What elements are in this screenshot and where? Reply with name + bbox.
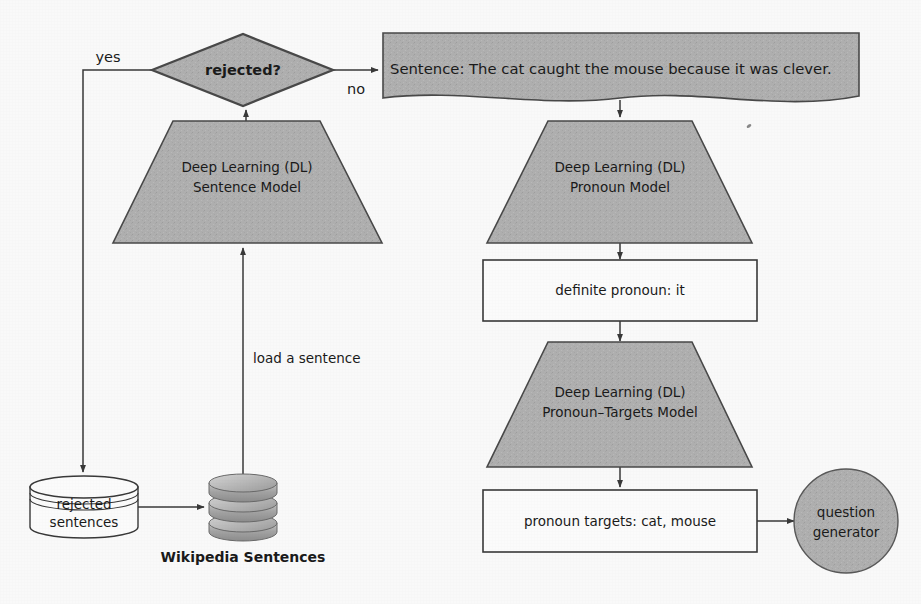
scan-artifacts bbox=[746, 123, 752, 128]
sentence-document-label: Sentence: The cat caught the mouse becau… bbox=[390, 60, 832, 77]
node-dl-sentence-model[interactable]: Deep Learning (DL) Sentence Model bbox=[113, 121, 382, 243]
dl-pronoun-targets-model-label-line1: Deep Learning (DL) bbox=[554, 384, 685, 400]
node-rejected-sentences-store[interactable]: rejected sentences bbox=[30, 476, 138, 538]
node-pronoun-targets[interactable]: pronoun targets: cat, mouse bbox=[483, 490, 757, 552]
node-wikipedia-sentences-store[interactable]: Wikipedia Sentences bbox=[161, 474, 326, 565]
definite-pronoun-label: definite pronoun: it bbox=[555, 282, 684, 298]
dl-sentence-model-label-line2: Sentence Model bbox=[193, 179, 301, 195]
node-definite-pronoun[interactable]: definite pronoun: it bbox=[483, 260, 757, 321]
edge-label-load-a-sentence: load a sentence bbox=[253, 350, 361, 366]
rejected-sentences-label-line2: sentences bbox=[50, 514, 119, 530]
edge-label-no: no bbox=[347, 81, 365, 97]
flowchart-canvas: rejected? Sentence: The cat caught the m… bbox=[0, 0, 921, 604]
wikipedia-sentences-label: Wikipedia Sentences bbox=[161, 549, 326, 565]
node-decision-rejected[interactable]: rejected? bbox=[152, 34, 333, 106]
node-dl-pronoun-targets-model[interactable]: Deep Learning (DL) Pronoun–Targets Model bbox=[487, 342, 752, 467]
node-question-generator[interactable]: question generator bbox=[794, 469, 898, 573]
node-sentence-document[interactable]: Sentence: The cat caught the mouse becau… bbox=[383, 33, 859, 102]
rejected-sentences-label-line1: rejected bbox=[56, 496, 111, 512]
dl-pronoun-targets-model-label-line2: Pronoun–Targets Model bbox=[542, 404, 698, 420]
node-dl-pronoun-model[interactable]: Deep Learning (DL) Pronoun Model bbox=[487, 121, 752, 243]
question-generator-label-line2: generator bbox=[813, 524, 880, 540]
cylinder-top bbox=[30, 476, 138, 498]
decision-rejected-label: rejected? bbox=[205, 62, 281, 78]
question-generator-label-line1: question bbox=[817, 504, 875, 520]
circle-shape bbox=[794, 469, 898, 573]
edge-label-yes: yes bbox=[95, 49, 120, 65]
edge-yes-to-rejected-store bbox=[83, 70, 152, 472]
db-disk-top-top bbox=[209, 474, 277, 492]
dl-pronoun-model-label-line2: Pronoun Model bbox=[570, 179, 670, 195]
flowchart-svg: rejected? Sentence: The cat caught the m… bbox=[0, 0, 921, 604]
pronoun-targets-label: pronoun targets: cat, mouse bbox=[524, 513, 716, 529]
dl-sentence-model-label-line1: Deep Learning (DL) bbox=[181, 159, 312, 175]
dl-pronoun-model-label-line1: Deep Learning (DL) bbox=[554, 159, 685, 175]
